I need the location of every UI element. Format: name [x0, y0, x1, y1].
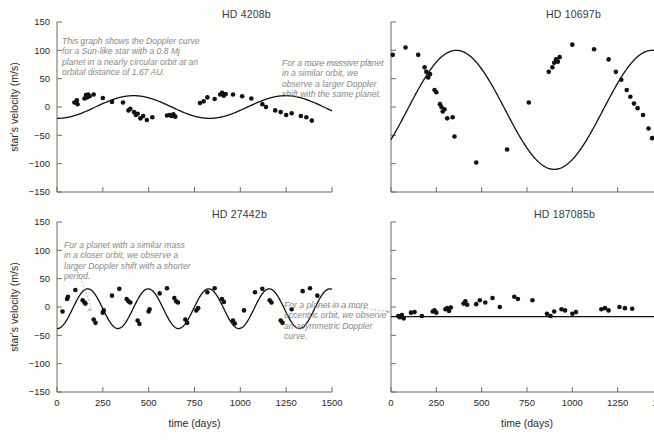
y-tick-label: 100: [34, 45, 50, 56]
data-point: [574, 310, 579, 315]
annotation-line: For a more massive planet: [282, 58, 384, 68]
data-point: [650, 136, 654, 141]
data-point: [157, 291, 162, 296]
data-point: [527, 100, 532, 105]
data-point: [498, 305, 503, 310]
data-point: [176, 300, 181, 305]
data-point: [212, 97, 217, 102]
data-point: [110, 100, 115, 105]
data-point: [264, 105, 269, 110]
data-point: [242, 308, 247, 313]
data-point: [150, 115, 155, 120]
annotation-arrowhead: [86, 308, 92, 312]
data-point: [635, 106, 640, 111]
data-point: [201, 99, 206, 104]
data-point: [205, 290, 210, 295]
data-point: [75, 98, 80, 103]
plot-area-1: 150100500−50−100−150star's velocity (m/s…: [0, 0, 330, 215]
annotation-line: This graph shows the Doppler curve: [62, 36, 200, 46]
data-point: [110, 293, 115, 298]
x-tick-label: 1000: [562, 397, 583, 408]
data-point: [147, 307, 152, 312]
data-point: [614, 70, 619, 75]
x-tick-label: 750: [519, 397, 535, 408]
data-point: [231, 92, 236, 97]
data-point: [269, 300, 274, 305]
panel-title-3: HD 27442b: [212, 208, 267, 220]
panel-annotation-2: For a more massive planet in a similar o…: [282, 58, 384, 100]
data-point: [299, 114, 304, 119]
data-point: [300, 289, 305, 294]
panel-annotation-1: This graph shows the Doppler curve for a…: [62, 36, 200, 78]
data-point: [145, 118, 150, 123]
data-point: [630, 306, 635, 311]
data-point: [87, 94, 92, 99]
x-tick-label: 0: [388, 397, 393, 408]
data-point: [205, 95, 210, 100]
data-point: [416, 53, 421, 58]
data-point: [465, 302, 470, 307]
data-point: [530, 298, 535, 303]
data-point: [135, 112, 140, 117]
panel-title-4: HD 187085b: [534, 208, 595, 220]
y-tick-label: −50: [34, 130, 50, 141]
panel-annotation-3: For a planet with a similar mass in a cl…: [64, 240, 191, 282]
annotation-line: for a Sun-like star with a 0.8 Mj: [62, 46, 200, 56]
data-point: [66, 295, 71, 300]
x-axis-label: time (days): [169, 417, 221, 429]
panel-hd-4208b: HD 4208b This graph shows the Doppler cu…: [0, 0, 330, 215]
data-point: [557, 55, 562, 60]
data-point: [452, 134, 457, 139]
y-tick-label: 0: [45, 301, 50, 312]
y-tick-label: −100: [29, 358, 50, 369]
data-point: [563, 308, 568, 313]
panel-annotation-4: For a planet in a more eccentric orbit, …: [284, 300, 386, 342]
data-point: [445, 116, 450, 121]
data-point: [223, 92, 228, 97]
annotation-line: For a planet in a more: [284, 300, 386, 310]
data-point: [91, 92, 96, 97]
data-point: [141, 114, 146, 119]
y-tick-label: 100: [34, 245, 50, 256]
data-point: [304, 115, 309, 120]
data-point: [240, 94, 245, 99]
y-tick-label: 50: [39, 73, 50, 84]
y-tick-label: −100: [29, 158, 50, 169]
data-point: [483, 300, 488, 305]
annotation-line: observe a larger Doppler: [282, 79, 384, 89]
data-point: [117, 287, 122, 292]
data-point: [173, 114, 178, 119]
annotation-line: orbital distance of 1.67 AU.: [62, 67, 200, 77]
data-point: [260, 102, 265, 107]
data-point: [516, 297, 521, 302]
panel-hd-27442b: HD 27442b For a planet with a similar ma…: [0, 200, 330, 445]
data-point: [505, 147, 510, 152]
data-point: [401, 316, 406, 321]
data-point: [606, 308, 611, 313]
data-point: [632, 101, 637, 106]
data-point: [420, 314, 425, 319]
data-point: [260, 287, 265, 292]
y-tick-label: −50: [34, 330, 50, 341]
data-point: [428, 72, 433, 77]
x-tick-label: 500: [474, 397, 490, 408]
annotation-line: period.: [64, 271, 191, 281]
x-tick-label: 250: [95, 397, 111, 408]
data-point: [450, 115, 455, 120]
data-point: [284, 113, 289, 118]
annotation-line: shift with the same planet.: [282, 89, 384, 99]
data-point: [422, 65, 427, 70]
data-point: [233, 321, 238, 326]
annotation-line: in a closer orbit, we observe a: [64, 250, 191, 260]
data-point: [128, 300, 133, 305]
data-point: [315, 293, 320, 298]
data-point: [93, 321, 98, 326]
y-tick-label: 150: [34, 216, 50, 227]
data-point: [101, 308, 106, 313]
data-point: [253, 290, 258, 295]
data-point: [249, 96, 254, 101]
data-point: [196, 306, 201, 311]
x-axis-label: time (days): [501, 417, 553, 429]
annotation-line: in a similar orbit, we: [282, 68, 384, 78]
data-point: [128, 106, 133, 111]
